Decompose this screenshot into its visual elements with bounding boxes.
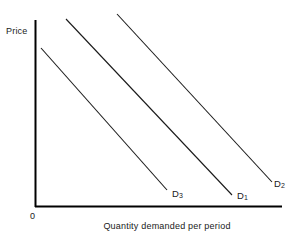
demand-curve-d3 [41,48,167,190]
curve-label-d3-letter: D [172,188,179,199]
curve-label-d1-letter: D [237,190,244,201]
demand-curve-figure: Price 0 Quantity demanded per period D3 … [0,0,294,239]
curve-label-d1-subscript: 1 [244,194,248,201]
curve-label-d2: D2 [274,178,285,189]
curve-label-d2-letter: D [274,178,281,189]
curve-label-d2-subscript: 2 [281,182,285,189]
curve-label-d1: D1 [237,190,248,201]
x-axis-label: Quantity demanded per period [0,221,294,231]
chart-canvas [0,0,294,239]
demand-curve-d1 [66,19,232,195]
y-axis-label: Price [6,26,28,36]
origin-label: 0 [30,211,35,221]
curve-label-d3: D3 [172,188,183,199]
curve-label-d3-subscript: 3 [179,192,183,199]
